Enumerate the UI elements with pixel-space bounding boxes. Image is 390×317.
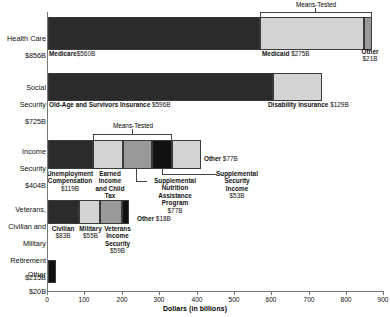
annotation-value: $275B [291, 50, 309, 57]
annotation-name-line3: and Child [95, 185, 124, 192]
annotation-medicaid: Medicaid $275B [262, 50, 362, 57]
means-tested-stem-income-security [132, 129, 133, 135]
category-name-line2: Security [20, 164, 46, 173]
annotation-name-line1: Unemployment [47, 170, 93, 177]
x-axis-tick-700 [309, 292, 310, 295]
annotation-name-line2: Compensation [48, 177, 92, 184]
x-axis-label-100: 100 [78, 296, 89, 303]
x-axis-tick-900 [383, 292, 384, 295]
annotation-veterans-income-security: Veterans Income Security $59B [101, 225, 134, 255]
category-name-line1: Social [26, 83, 46, 92]
annotation-name: Disability Insurance [268, 101, 328, 108]
x-axis-label-200: 200 [116, 296, 127, 303]
means-tested-bracket-income-security [93, 134, 172, 141]
category-name: Health Care [7, 34, 46, 43]
budget-bar-chart: Health Care $856B Social Security $725B … [0, 0, 390, 317]
x-axis-label-700: 700 [303, 296, 314, 303]
annotation-value: $596B [152, 101, 170, 108]
bar-segment-civilian-retirement [48, 200, 79, 224]
annotation-name: Medicare [49, 50, 77, 57]
annotation-oasi: Old-Age and Survivors Insurance $596B [49, 101, 239, 108]
category-total: $404B [25, 181, 46, 190]
bar-segment-oasi [48, 73, 273, 101]
annotation-value: $21B [363, 55, 378, 62]
bar-segment-medicare [48, 17, 260, 50]
annotation-value: $560B [77, 50, 95, 57]
annotation-value: $77B [168, 207, 183, 214]
annotation-ssi: Supplemental Security Income $53B [206, 170, 268, 200]
annotation-value: $129B [330, 101, 348, 108]
bar-segment-veterans-other [122, 200, 129, 224]
annotation-name-line2: Income [99, 177, 121, 184]
annotation-name-line3: Security [105, 240, 130, 247]
bar-segment-health-care-other [364, 17, 372, 50]
category-name-line3: Military [23, 239, 46, 248]
x-axis-tick-100 [84, 292, 85, 295]
bar-segment-income-security-other [172, 140, 201, 169]
x-axis-label-400: 400 [191, 296, 202, 303]
annotation-name: Military [79, 225, 101, 232]
category-total: $725B [25, 117, 46, 126]
annotation-value: $55B [83, 232, 98, 239]
means-tested-bracket-health-care [260, 12, 372, 18]
bar-segment-medicaid [260, 17, 364, 50]
x-axis-tick-400 [197, 292, 198, 295]
bar-segment-eitc [93, 140, 123, 169]
annotation-name-line4: Program [162, 199, 188, 206]
bar-segment-disability-insurance [273, 73, 322, 101]
annotation-health-care-other: Other$21B [352, 48, 388, 63]
bar-segment-veterans-income-security [100, 200, 122, 224]
y-axis-line [47, 12, 48, 291]
means-tested-label-health-care: Means-Tested [296, 1, 336, 8]
annotation-name-line1: Veterans [104, 225, 131, 232]
annotation-name: Other [204, 155, 221, 162]
x-axis-label-600: 600 [265, 296, 276, 303]
annotation-name: Medicaid [262, 50, 289, 57]
annotation-value: $77B [223, 155, 238, 162]
x-axis-label-900: 900 [377, 296, 388, 303]
bar-segment-other-total [48, 260, 56, 283]
annotation-veterans-other: Other $18B [137, 215, 197, 222]
annotation-value: $53B [230, 192, 245, 199]
category-total: $856B [25, 51, 46, 60]
category-name-line2: Security [20, 100, 46, 109]
annotation-name-line1: Supplemental [216, 170, 258, 177]
annotation-military-retirement: Military $55B [78, 225, 103, 240]
category-name-line1: Veterans, [15, 205, 46, 214]
category-label-health-care: Health Care $856B [0, 26, 46, 60]
annotation-value: $18B [156, 215, 171, 222]
annotation-value: $59B [110, 247, 125, 254]
category-name: Other [28, 270, 46, 279]
category-total: $20B [29, 287, 46, 296]
annotation-name-line2: Nutrition [162, 184, 189, 191]
annotation-value: $83B [56, 232, 71, 239]
x-axis-tick-600 [271, 292, 272, 295]
x-axis-tick-500 [234, 292, 235, 295]
annotation-name-line1: Supplemental [154, 177, 196, 184]
annotation-unemployment-compensation: Unemployment Compensation $119B [44, 170, 96, 192]
annotation-snap: Supplemental Nutrition Assistance Progra… [146, 177, 204, 214]
x-axis-tick-200 [122, 292, 123, 295]
x-axis-tick-300 [159, 292, 160, 295]
x-axis-label-800: 800 [340, 296, 351, 303]
category-name-line1: Income [22, 147, 46, 156]
annotation-name-line1: Earned [99, 170, 121, 177]
x-axis-label-500: 500 [228, 296, 239, 303]
bar-segment-unemployment-compensation [48, 140, 93, 169]
category-label-other: Other $20B [0, 262, 46, 296]
bar-segment-military-retirement [79, 200, 100, 224]
x-axis-tick-800 [346, 292, 347, 295]
annotation-name-line3: Income [226, 185, 248, 192]
bar-segment-ssi [152, 140, 172, 169]
annotation-disability-insurance: Disability Insurance $129B [268, 101, 388, 108]
annotation-value: $119B [61, 185, 79, 192]
annotation-medicare: Medicare$560B [49, 50, 159, 57]
x-axis-line [47, 291, 384, 292]
category-name-line2: Civilian and [8, 222, 46, 231]
x-axis-title: Dollars (in billions) [0, 305, 390, 312]
annotation-civilian-retirement: Civilian $83B [46, 225, 80, 240]
means-tested-stem-health-care [315, 8, 316, 13]
category-label-income-security: Income Security $404B [0, 139, 46, 191]
annotation-name: Other [361, 48, 378, 55]
x-axis-tick-0 [47, 292, 48, 295]
